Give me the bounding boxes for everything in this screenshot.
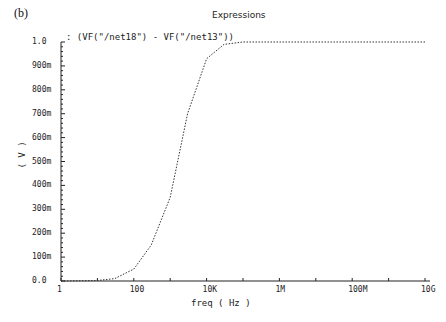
chart: (b) Expressions : (VF("/net18") - VF("/n… [0, 0, 446, 322]
plot-area [0, 0, 446, 322]
